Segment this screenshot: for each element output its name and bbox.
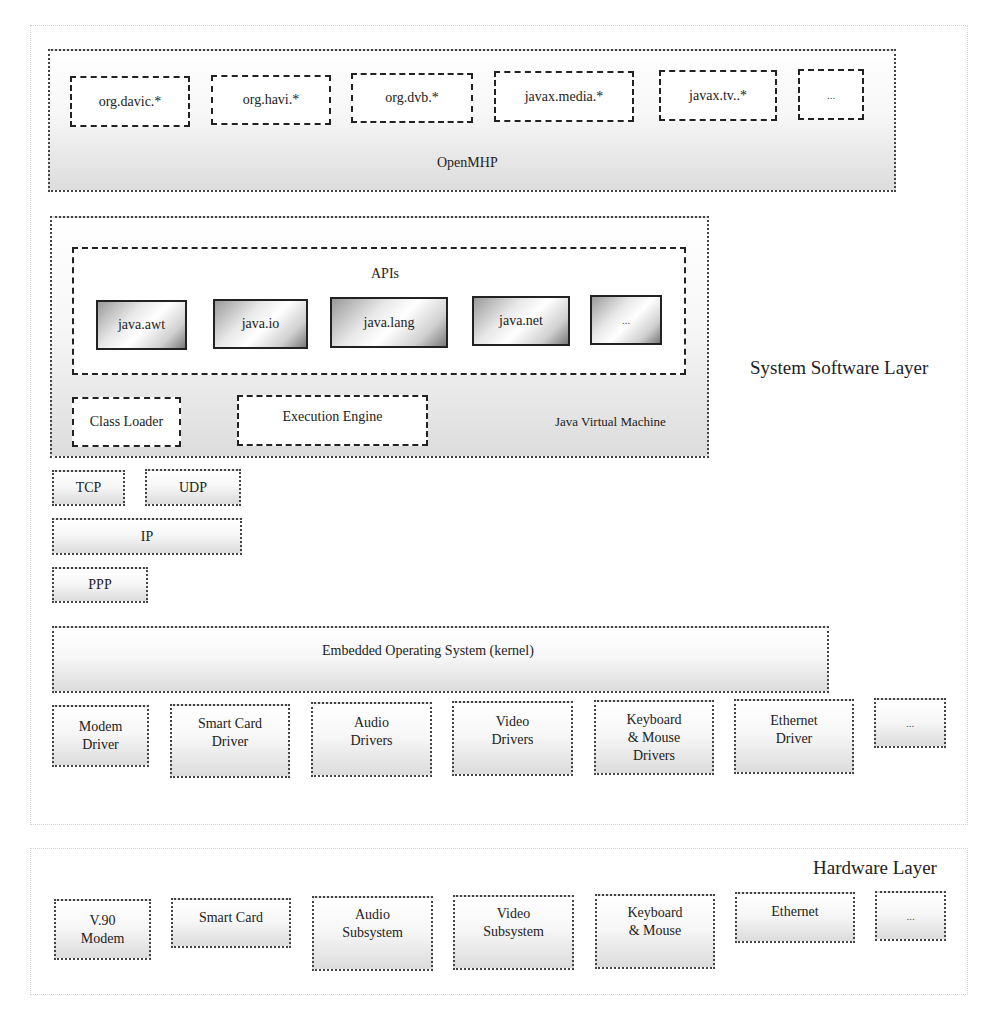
package-label: org.havi.*	[243, 91, 300, 109]
package-org-dvb: org.dvb.*	[351, 73, 473, 123]
hw-video-subsystem: Video Subsystem	[453, 895, 574, 970]
ellipsis-label: ...	[906, 714, 914, 732]
driver-keyboard-mouse: Keyboard & Mouse Drivers	[594, 700, 714, 775]
hw-label: Audio Subsystem	[342, 906, 403, 942]
system-software-layer-label: System Software Layer	[750, 357, 928, 379]
class-loader-box: Class Loader	[72, 397, 181, 447]
package-javax-media: javax.media.*	[494, 71, 634, 122]
kernel-label: Embedded Operating System (kernel)	[322, 643, 534, 659]
hw-label: Keyboard & Mouse	[627, 904, 682, 940]
hw-keyboard-mouse: Keyboard & Mouse	[595, 894, 715, 969]
kernel-box	[52, 626, 829, 693]
api-java-lang: java.lang	[330, 297, 448, 348]
hw-audio-subsystem: Audio Subsystem	[312, 896, 433, 971]
hw-label: V.90 Modem	[81, 912, 125, 948]
openmhp-label: OpenMHP	[437, 155, 498, 171]
class-loader-label: Class Loader	[90, 413, 163, 431]
package-label: org.davic.*	[99, 93, 162, 111]
tcp-box: TCP	[52, 470, 125, 506]
driver-label: Audio Drivers	[351, 714, 393, 750]
hw-label: Smart Card	[199, 909, 263, 927]
udp-box: UDP	[145, 469, 241, 506]
api-more: ...	[590, 295, 662, 345]
hw-v90-modem: V.90 Modem	[54, 899, 151, 960]
driver-label: Keyboard & Mouse Drivers	[626, 711, 681, 765]
api-label: java.io	[242, 315, 280, 333]
driver-label: Smart Card Driver	[198, 715, 262, 751]
api-label: java.awt	[118, 316, 165, 334]
hw-ethernet: Ethernet	[735, 892, 855, 943]
hw-label: Video Subsystem	[483, 905, 544, 941]
ppp-label: PPP	[88, 576, 111, 594]
udp-label: UDP	[179, 479, 207, 497]
driver-label: Ethernet Driver	[770, 712, 817, 748]
package-label: javax.tv..*	[689, 87, 747, 105]
jvm-label: Java Virtual Machine	[555, 414, 666, 430]
execution-engine-box: Execution Engine	[237, 395, 428, 446]
api-java-net: java.net	[472, 296, 570, 346]
driver-modem: Modem Driver	[52, 705, 149, 767]
ppp-box: PPP	[52, 567, 148, 603]
api-label: java.lang	[364, 314, 415, 332]
driver-label: Modem Driver	[79, 718, 123, 754]
driver-label: Video Drivers	[492, 713, 534, 749]
package-org-davic: org.davic.*	[70, 76, 190, 127]
driver-smart-card: Smart Card Driver	[170, 704, 290, 778]
hw-smart-card: Smart Card	[171, 898, 291, 948]
driver-more: ...	[874, 698, 946, 748]
ellipsis-label: ...	[827, 86, 835, 104]
hw-label: Ethernet	[771, 903, 818, 921]
driver-audio: Audio Drivers	[311, 702, 432, 777]
driver-ethernet: Ethernet Driver	[734, 699, 854, 774]
ip-box: IP	[52, 518, 242, 555]
api-java-io: java.io	[213, 299, 308, 349]
package-org-havi: org.havi.*	[211, 75, 331, 125]
ellipsis-label: ...	[622, 311, 630, 329]
package-more: ...	[798, 69, 864, 120]
tcp-label: TCP	[76, 479, 102, 497]
apis-label: APIs	[371, 266, 399, 282]
driver-video: Video Drivers	[452, 701, 573, 776]
package-label: javax.media.*	[525, 88, 604, 106]
api-java-awt: java.awt	[96, 300, 187, 350]
ip-label: IP	[141, 528, 153, 546]
api-label: java.net	[499, 312, 543, 330]
package-label: org.dvb.*	[385, 89, 438, 107]
package-javax-tv: javax.tv..*	[659, 70, 777, 121]
execution-engine-label: Execution Engine	[283, 408, 383, 426]
ellipsis-label: ...	[906, 907, 914, 925]
hw-more: ...	[875, 891, 946, 941]
hardware-layer-label: Hardware Layer	[813, 857, 937, 879]
